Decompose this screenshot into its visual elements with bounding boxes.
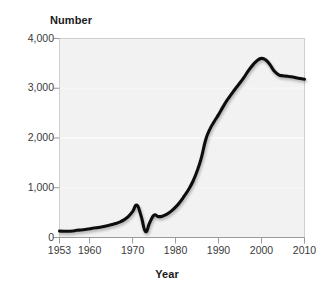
y-tick-label: 0	[8, 231, 54, 243]
x-tick-label: 1960	[70, 244, 110, 256]
x-tick-label: 1990	[199, 244, 239, 256]
line-chart-figure: Number 01,0002,0003,0004,000 19531960197…	[0, 0, 334, 289]
y-tick-label: 2,000	[8, 131, 54, 143]
x-tick-label: 1980	[156, 244, 196, 256]
x-axis-title: Year	[0, 268, 334, 280]
x-tick-label: 2010	[285, 244, 325, 256]
y-tick-label: 1,000	[8, 181, 54, 193]
x-tick-label: 2000	[242, 244, 282, 256]
x-tick-label: 1970	[113, 244, 153, 256]
x-tick-marks	[60, 238, 305, 244]
y-tick-label: 4,000	[8, 32, 54, 44]
y-tick-label: 3,000	[8, 81, 54, 93]
y-tick-marks	[54, 39, 60, 238]
